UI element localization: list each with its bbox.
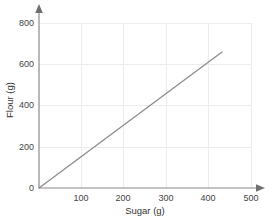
y-tick-labels: 800 600 400 200 0 xyxy=(19,18,34,193)
y-tick-label-200: 200 xyxy=(19,142,34,152)
y-axis-arrow-icon xyxy=(35,4,43,13)
x-tick-label-100: 100 xyxy=(73,193,88,203)
y-tick-label-600: 600 xyxy=(19,59,34,69)
line-chart: 800 600 400 200 0 100 200 300 400 500 Su… xyxy=(0,0,272,219)
y-tick-label-0: 0 xyxy=(29,183,34,193)
chart-container: 800 600 400 200 0 100 200 300 400 500 Su… xyxy=(0,0,272,219)
y-axis-title: Flour (g) xyxy=(4,82,15,118)
x-tick-label-200: 200 xyxy=(115,193,130,203)
x-tick-label-500: 500 xyxy=(243,193,258,203)
x-tick-label-300: 300 xyxy=(158,193,173,203)
x-axis-arrow-icon xyxy=(256,184,265,192)
y-tick-label-800: 800 xyxy=(19,18,34,28)
x-tick-labels: 100 200 300 400 500 xyxy=(73,193,258,203)
x-axis-title: Sugar (g) xyxy=(125,205,165,216)
x-tick-label-400: 400 xyxy=(200,193,215,203)
y-tick-label-400: 400 xyxy=(19,100,34,110)
